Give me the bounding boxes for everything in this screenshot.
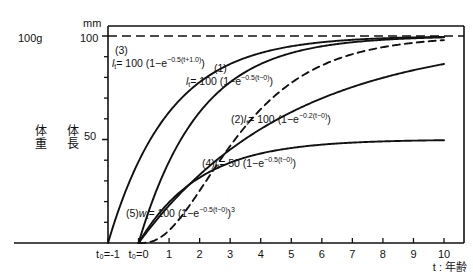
x-tick-label-7: 7 — [349, 248, 355, 260]
eq1-rest: = 100 (1−e — [190, 75, 241, 87]
eq2-tail: ) — [327, 113, 331, 125]
y-axis-label-length-char2: 長 — [67, 138, 79, 151]
x-tick-label-9: 9 — [410, 248, 416, 260]
eq4-exp: −0.5(t−0) — [264, 156, 292, 163]
eq5-exp: −0.5(t−0) — [199, 206, 227, 213]
eq4-number: (4) — [202, 157, 215, 169]
y-axis-label-weight-char2: 重 — [35, 138, 47, 151]
x-tick-label-tzero: t₀=0 — [128, 248, 148, 260]
eq5-number: (5) — [126, 207, 139, 219]
eq5-rest: = 100 (1−e — [148, 207, 199, 219]
eq1-tail: ) — [270, 75, 274, 87]
eq2-sub: t — [246, 119, 248, 126]
y-axis-label-length-char1: 体 — [67, 125, 79, 138]
x-tick-label-6: 6 — [319, 248, 325, 260]
x-tick-label-tminus1: t₀=-1 — [96, 248, 120, 260]
curve-label-1-number: (1) — [214, 62, 227, 74]
y-axis-label-length: 体 長 — [67, 125, 79, 150]
y-axis-unit-100g: 100g — [18, 32, 42, 44]
curve-label-1-equation: lt= 100 (1−e−0.5(t−0)) — [186, 74, 273, 87]
eq3-rest: = 100 (1−e — [116, 57, 167, 69]
y-axis-label-weight: 体 重 — [35, 125, 47, 150]
x-tick-label-3: 3 — [227, 248, 233, 260]
y-tick-label-50: 50 — [84, 130, 96, 142]
eq4-sub: t — [217, 163, 219, 170]
y-axis-unit-mm: mm — [83, 17, 102, 29]
eq4-tail: ) — [293, 157, 297, 169]
eq4-rest: = 50 (1−e — [219, 157, 264, 169]
eq3-exp: −0.5(t+1.0) — [167, 56, 201, 63]
eq5-power: 3 — [231, 206, 235, 213]
x-axis-title: t : 年齢 — [433, 258, 467, 274]
x-tick-label-2: 2 — [197, 248, 203, 260]
chart-canvas: mm 100 50 100g 体 重 体 長 t₀=-1t₀=012345678… — [0, 0, 473, 279]
y-tick-label-100: 100 — [80, 32, 98, 44]
eq1-exp: −0.5(t−0) — [241, 74, 269, 81]
eq2-number: (2) — [231, 113, 244, 125]
x-tick-label-5: 5 — [288, 248, 294, 260]
axes-group — [14, 26, 464, 243]
eq2-exp: −0.2(t−0) — [299, 112, 327, 119]
curve-label-4-equation: (4)lt= 50 (1−e−0.5(t−0)) — [202, 156, 296, 169]
curve-label-3-equation: lt= 100 (1−e−0.5(t+1.0)) — [112, 56, 205, 69]
curve-label-2-equation: (2)lt= 100 (1−e−0.2(t−0)) — [231, 112, 331, 125]
x-tick-label-4: 4 — [258, 248, 264, 260]
eq2-rest: = 100 (1−e — [248, 113, 299, 125]
eq3-tail: ) — [201, 57, 205, 69]
curve-label-5-equation: (5)wt= 100 (1−e−0.5(t−0))3 — [126, 206, 235, 219]
x-tick-label-8: 8 — [380, 248, 386, 260]
curve-label-3-number: (3) — [115, 44, 128, 56]
y-axis-label-weight-char1: 体 — [35, 125, 47, 138]
x-tick-label-1: 1 — [166, 248, 172, 260]
